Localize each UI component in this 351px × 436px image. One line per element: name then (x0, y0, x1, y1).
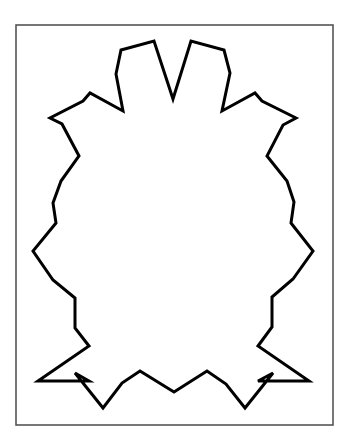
figure-canvas (0, 0, 351, 436)
closed-outline-shape (33, 41, 313, 408)
